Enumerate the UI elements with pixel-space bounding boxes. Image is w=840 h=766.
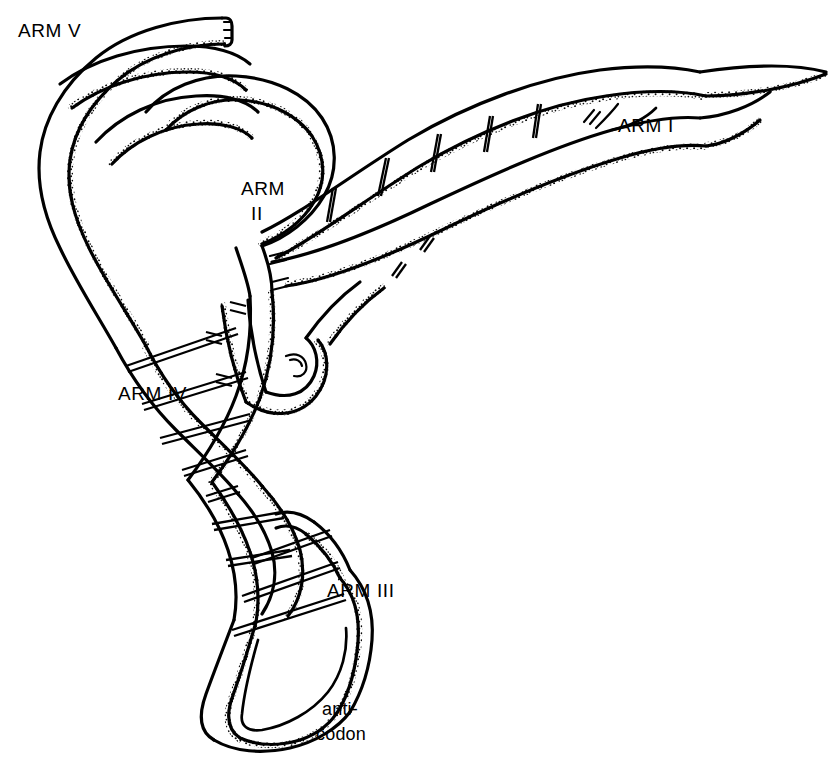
label-anticodon-line1: anti- [322,697,358,722]
label-arm-v: ARM V [18,18,81,43]
label-anticodon-line2: codon [316,722,366,747]
label-arm-iii: ARM III [327,578,395,603]
label-arm-i: ARM I [618,113,674,138]
label-arm-iv: ARM IV [118,381,187,406]
trna-figure: .o { fill:none; stroke:#000; stroke-widt… [0,0,840,766]
label-arm-ii-line2: II [251,201,263,226]
label-arm-ii-line1: ARM [241,176,285,201]
